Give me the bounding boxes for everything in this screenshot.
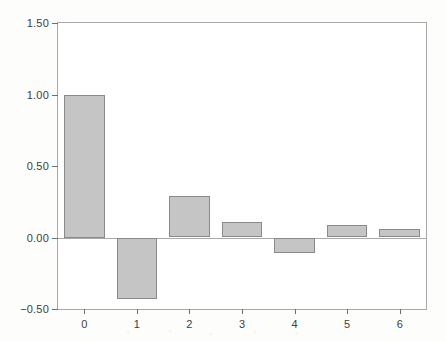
x-axis-tick xyxy=(400,309,401,314)
y-axis-tick-label: 1.00 xyxy=(27,89,49,101)
plot-area: 1.501.000.500.00−0.50 0123456 xyxy=(57,22,427,310)
y-axis-tick-label: 0.50 xyxy=(27,160,49,172)
y-axis-tick-label: 0.00 xyxy=(27,232,49,244)
x-axis-tick-label: 5 xyxy=(344,318,350,330)
x-axis-tick xyxy=(189,309,190,314)
bars-layer xyxy=(58,23,426,309)
y-axis-tick-label: 1.50 xyxy=(27,17,49,29)
scan-artifact xyxy=(110,328,340,337)
x-axis-tick xyxy=(295,309,296,314)
bar xyxy=(327,225,367,238)
x-axis-tick-label: 0 xyxy=(81,318,87,330)
x-axis-tick xyxy=(242,309,243,314)
bar-chart-figure: 1.501.000.500.00−0.50 0123456 xyxy=(0,0,446,341)
bar xyxy=(222,222,262,238)
x-axis-tick-label: 6 xyxy=(397,318,403,330)
bar xyxy=(169,196,209,237)
x-axis-tick xyxy=(347,309,348,314)
x-axis-tick xyxy=(137,309,138,314)
bar xyxy=(274,238,314,254)
x-axis-tick xyxy=(84,309,85,314)
y-axis-tick xyxy=(52,309,58,310)
bar xyxy=(117,238,157,299)
bar xyxy=(64,95,104,238)
bar xyxy=(379,229,419,238)
y-axis-tick-label: −0.50 xyxy=(20,303,49,315)
